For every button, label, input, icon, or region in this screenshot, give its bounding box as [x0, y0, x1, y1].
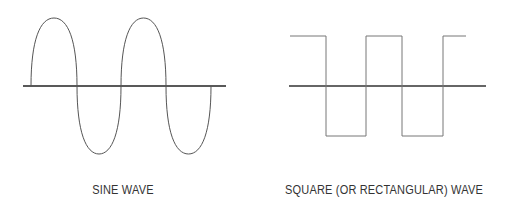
sine-wave-diagram: SINE WAVE	[0, 0, 253, 216]
sine-wave-caption: SINE WAVE	[92, 183, 153, 197]
square-wave-caption: SQUARE (OR RECTANGULAR) WAVE	[285, 183, 483, 197]
square-wave-diagram: SQUARE (OR RECTANGULAR) WAVE	[253, 0, 506, 216]
